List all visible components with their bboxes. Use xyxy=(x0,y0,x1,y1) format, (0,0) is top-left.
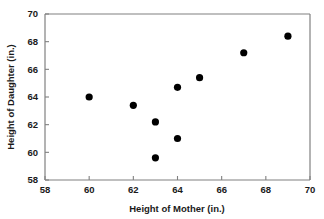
y-tick-label: 60 xyxy=(27,147,38,158)
x-tick-label: 68 xyxy=(261,184,272,195)
data-point-marker xyxy=(174,84,181,91)
y-tick-label: 66 xyxy=(27,64,38,75)
x-tick-label: 62 xyxy=(128,184,139,195)
y-tick-label: 70 xyxy=(27,8,38,19)
y-tick-label: 58 xyxy=(27,174,38,185)
data-point-marker xyxy=(152,154,159,161)
data-point-marker xyxy=(130,102,137,109)
data-point-marker xyxy=(152,118,159,125)
data-points-layer xyxy=(86,33,292,162)
data-point-marker xyxy=(174,135,181,142)
x-tick-label: 60 xyxy=(84,184,95,195)
data-point-marker xyxy=(86,93,93,100)
y-axis-title: Height of Daughter (in.) xyxy=(5,44,16,150)
y-axis-ticks: 58606264666870 xyxy=(27,8,49,185)
x-axis-title: Height of Mother (in.) xyxy=(129,203,225,214)
x-tick-label: 66 xyxy=(216,184,227,195)
y-tick-label: 62 xyxy=(27,119,38,130)
scatter-plot-canvas: 58606264666870 58606264666870 Height of … xyxy=(0,0,324,219)
data-point-marker xyxy=(284,33,291,40)
data-point-marker xyxy=(196,74,203,81)
y-tick-label: 64 xyxy=(27,91,38,102)
x-axis-ticks: 58606264666870 xyxy=(40,176,316,195)
scatter-plot-figure: 58606264666870 58606264666870 Height of … xyxy=(0,0,324,219)
x-tick-label: 70 xyxy=(305,184,316,195)
x-tick-label: 58 xyxy=(40,184,51,195)
plot-axes-frame xyxy=(45,14,310,180)
x-tick-label: 64 xyxy=(172,184,183,195)
y-tick-label: 68 xyxy=(27,36,38,47)
data-point-marker xyxy=(240,49,247,56)
